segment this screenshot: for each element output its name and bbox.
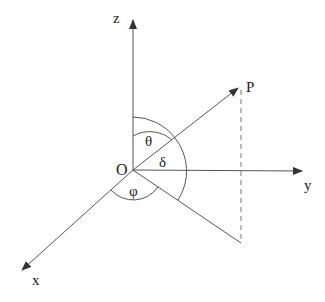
- y-axis-label: y: [304, 177, 312, 193]
- phi-label: φ: [129, 183, 138, 199]
- delta-arc: [175, 138, 187, 200]
- z-axis-label: z: [113, 10, 120, 26]
- x-axis-label: x: [32, 272, 40, 288]
- coordinate-diagram: z P y x O θ δ φ: [0, 0, 325, 302]
- y-axis: [133, 170, 302, 171]
- delta-label: δ: [159, 154, 166, 170]
- theta-arc: [133, 132, 172, 140]
- x-axis: [22, 170, 133, 270]
- op-vector: [133, 88, 238, 170]
- theta-arc-ext: [133, 117, 175, 138]
- point-label: P: [246, 79, 254, 95]
- projection-line: [133, 170, 241, 243]
- theta-label: θ: [145, 133, 152, 149]
- origin-label: O: [116, 161, 128, 178]
